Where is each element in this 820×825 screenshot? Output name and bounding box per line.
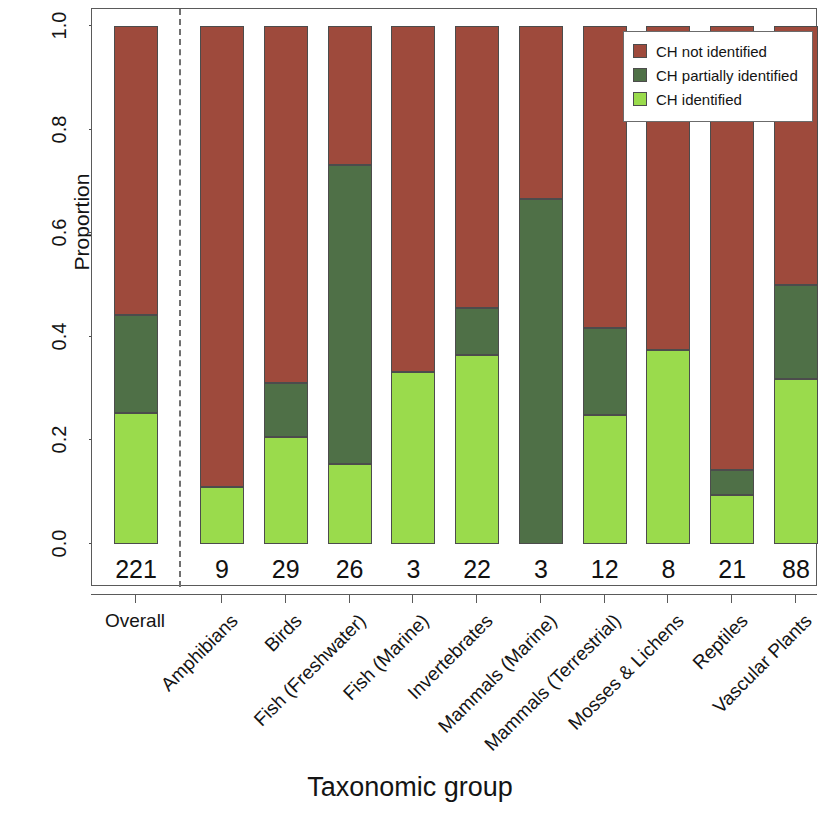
- bar-segment-partial: [114, 315, 158, 413]
- bar-segment-identified: [114, 413, 158, 544]
- y-axis-tick-label: 1.0: [48, 3, 71, 49]
- bar-count-label: 88: [756, 555, 820, 584]
- x-axis-tick-mark: [795, 594, 796, 603]
- y-axis-tick-label: 0.8: [48, 106, 71, 152]
- x-axis-tick-mark: [667, 594, 668, 603]
- legend-swatch-icon: [633, 92, 647, 106]
- bar-segment-identified: [391, 372, 435, 544]
- bar-segment-identified: [455, 355, 499, 544]
- legend-label: CH partially identified: [656, 67, 798, 84]
- x-axis-tick-label: Mosses & Lichens: [564, 610, 689, 735]
- x-axis-title: Taxonomic group: [0, 772, 820, 803]
- bar-segment-not: [455, 26, 499, 308]
- legend: CH not identifiedCH partially identified…: [623, 31, 813, 122]
- x-axis-tick-mark: [731, 594, 732, 603]
- bar-segment-partial: [328, 165, 372, 463]
- x-axis-tick-mark: [221, 594, 222, 603]
- stacked-bar: [328, 26, 372, 544]
- bar-segment-identified: [328, 464, 372, 544]
- x-axis-tick-label: Reptiles: [689, 610, 753, 674]
- bar-segment-partial: [264, 383, 308, 437]
- stacked-bar: [391, 26, 435, 544]
- bar-segment-not: [391, 26, 435, 372]
- bar-segment-partial: [583, 328, 627, 415]
- x-axis-line: [91, 594, 817, 595]
- x-axis-tick-label: Overall: [105, 610, 165, 632]
- x-axis-tick-mark: [540, 594, 541, 603]
- bar-segment-not: [264, 26, 308, 383]
- bar-segment-partial: [455, 308, 499, 355]
- stacked-bar: [200, 26, 244, 544]
- stacked-bar: [264, 26, 308, 544]
- x-axis-tick-mark: [135, 594, 136, 603]
- overall-separator-line: [179, 9, 181, 587]
- legend-label: CH identified: [656, 91, 742, 108]
- bar-segment-not: [114, 26, 158, 315]
- bar-segment-not: [328, 26, 372, 165]
- x-axis-tick-label: Birds: [260, 610, 306, 656]
- x-axis-tick-mark: [412, 594, 413, 603]
- bar-segment-identified: [200, 487, 244, 544]
- legend-label: CH not identified: [656, 43, 767, 60]
- bar-count-label: 221: [96, 555, 176, 584]
- bar-segment-not: [519, 26, 563, 198]
- bar-segment-partial: [519, 199, 563, 545]
- bar-segment-identified: [774, 379, 818, 544]
- bar-segment-partial: [710, 470, 754, 495]
- x-axis-tick-mark: [349, 594, 350, 603]
- legend-swatch-icon: [633, 68, 647, 82]
- x-axis-tick-label: Mammals (Marine): [434, 610, 562, 738]
- bar-segment-partial: [774, 285, 818, 379]
- stacked-bar: [114, 26, 158, 544]
- x-axis-tick-label: Fish (Freshwater): [249, 610, 370, 731]
- bar-segment-identified: [710, 495, 754, 544]
- y-axis-tick-label: 0.6: [48, 210, 71, 256]
- y-axis-tick-label: 0.4: [48, 313, 71, 359]
- x-axis-tick-mark: [285, 594, 286, 603]
- x-axis-tick-mark: [604, 594, 605, 603]
- legend-item: CH partially identified: [633, 64, 803, 86]
- bar-segment-identified: [583, 415, 627, 545]
- stacked-bar: [455, 26, 499, 544]
- bar-segment-not: [583, 26, 627, 328]
- stacked-bar: [519, 26, 563, 544]
- legend-swatch-icon: [633, 44, 647, 58]
- bar-segment-not: [200, 26, 244, 487]
- bar-segment-identified: [264, 437, 308, 544]
- y-axis-tick-label: 0.0: [48, 521, 71, 567]
- x-axis-tick-mark: [476, 594, 477, 603]
- legend-item: CH identified: [633, 88, 803, 110]
- stacked-bar: [583, 26, 627, 544]
- bar-segment-identified: [646, 350, 690, 544]
- legend-item: CH not identified: [633, 40, 803, 62]
- y-axis-tick-label: 0.2: [48, 417, 71, 463]
- chart-figure: Proportion 0.00.20.40.60.81.0 2219292632…: [0, 0, 820, 825]
- x-axis-tick-label: Amphibians: [157, 610, 243, 696]
- y-axis: 0.00.20.40.60.81.0: [36, 0, 82, 825]
